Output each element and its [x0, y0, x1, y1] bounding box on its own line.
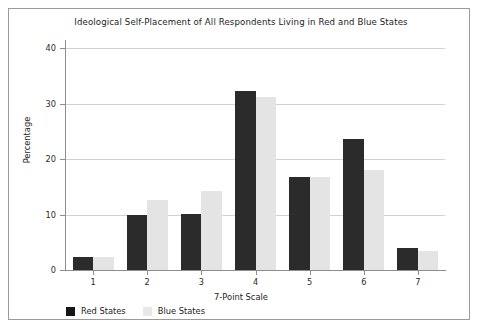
- gridline: [66, 48, 445, 49]
- legend-item-blue-states: Blue States: [143, 306, 205, 316]
- legend-item-red-states: Red States: [66, 306, 126, 316]
- x-tick-label: 4: [236, 277, 276, 287]
- bar-red-states-7: [397, 248, 418, 270]
- legend-label: Red States: [81, 306, 126, 316]
- x-tick-label: 1: [73, 277, 113, 287]
- bar-blue-states-3: [201, 191, 222, 270]
- x-axis-title: 7-Point Scale: [0, 292, 482, 302]
- bar-blue-states-4: [256, 97, 277, 270]
- bar-red-states-2: [127, 215, 148, 270]
- y-tick-label: 20: [16, 154, 56, 164]
- x-tick-mark: [201, 271, 202, 275]
- x-tick-label: 6: [344, 277, 384, 287]
- bar-red-states-1: [73, 257, 94, 270]
- bar-blue-states-6: [364, 170, 385, 270]
- plot-area: [66, 40, 445, 270]
- x-tick-mark: [93, 271, 94, 275]
- x-tick-label: 7: [398, 277, 438, 287]
- legend-label: Blue States: [158, 306, 205, 316]
- y-tick-label: 40: [16, 43, 56, 53]
- x-tick-mark: [256, 271, 257, 275]
- legend-swatch-icon: [143, 307, 152, 316]
- bar-red-states-4: [235, 91, 256, 270]
- x-tick-label: 3: [181, 277, 221, 287]
- x-tick-mark: [147, 271, 148, 275]
- bar-blue-states-2: [147, 200, 168, 270]
- bar-blue-states-7: [418, 251, 439, 270]
- legend-swatch-icon: [66, 307, 75, 316]
- chart-title: Ideological Self-Placement of All Respon…: [0, 17, 482, 27]
- bar-blue-states-1: [93, 257, 114, 270]
- x-tick-label: 2: [127, 277, 167, 287]
- bar-red-states-6: [343, 139, 364, 270]
- bar-red-states-5: [289, 177, 310, 270]
- y-axis-tick-labels: 010203040: [0, 0, 56, 336]
- x-tick-label: 5: [290, 277, 330, 287]
- x-tick-mark: [364, 271, 365, 275]
- y-tick-label: 30: [16, 99, 56, 109]
- chart-legend: Red StatesBlue States: [66, 306, 205, 316]
- bar-blue-states-5: [310, 177, 331, 270]
- bar-red-states-3: [181, 214, 202, 270]
- y-tick-label: 0: [16, 265, 56, 275]
- x-tick-mark: [310, 271, 311, 275]
- chart-figure: Ideological Self-Placement of All Respon…: [0, 0, 482, 336]
- x-tick-mark: [418, 271, 419, 275]
- y-tick-label: 10: [16, 210, 56, 220]
